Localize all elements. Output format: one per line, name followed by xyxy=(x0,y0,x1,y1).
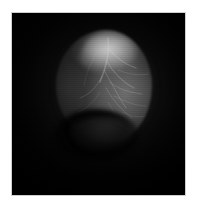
figure-page xyxy=(0,0,199,209)
scan-plate[interactable] xyxy=(12,13,185,195)
anatomical-structure xyxy=(12,13,185,195)
